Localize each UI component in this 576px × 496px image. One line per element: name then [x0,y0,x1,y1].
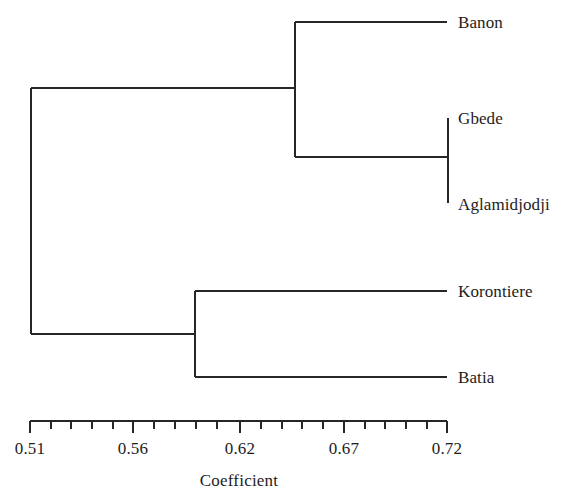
leaf-label-banon: Banon [458,14,503,31]
axis-tick-label-4: 0.72 [432,440,463,457]
leaf-label-korontiere: Korontiere [458,283,533,300]
axis-tick-label-1: 0.56 [118,440,149,457]
leaf-label-batia: Batia [458,369,494,386]
dendrogram-tree [30,22,448,433]
axis-tick-label-2: 0.62 [225,440,256,457]
leaf-label-gbede: Gbede [458,110,503,127]
dendrogram-figure: Banon Gbede Aglamidjodji Korontiere Bati… [0,0,576,496]
axis-title-coefficient: Coefficient [200,472,278,489]
dendrogram-canvas [0,0,576,496]
axis-minor-ticks [51,421,427,429]
leaf-label-aglamidjodji: Aglamidjodji [458,196,550,213]
axis-tick-label-3: 0.67 [329,440,360,457]
axis-tick-label-0: 0.51 [15,440,46,457]
